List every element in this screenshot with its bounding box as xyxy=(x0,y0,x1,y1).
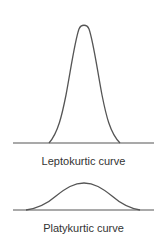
leptokurtic-curve-figure xyxy=(13,25,154,143)
platykurtic-label: Platykurtic curve xyxy=(0,222,167,234)
platykurtic-curve xyxy=(26,183,140,210)
kurtosis-diagram xyxy=(0,0,167,247)
leptokurtic-label: Leptokurtic curve xyxy=(0,155,167,167)
leptokurtic-curve xyxy=(49,25,120,143)
platykurtic-curve-figure xyxy=(13,183,154,210)
